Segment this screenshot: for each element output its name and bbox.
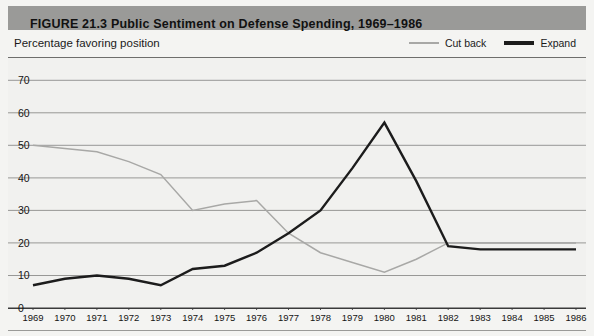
x-axis-tick-label: 1981	[406, 312, 427, 323]
x-axis-tick-label: 1985	[533, 312, 554, 323]
figure-bottom-rule	[8, 330, 586, 331]
y-axis-tick-label: 40	[18, 172, 30, 184]
x-axis-tick-label: 1970	[54, 312, 75, 323]
y-axis-tick-label: 60	[18, 107, 30, 119]
figure-container: FIGURE 21.3 Public Sentiment on Defense …	[0, 0, 594, 336]
x-axis-tick-label: 1983	[470, 312, 491, 323]
line-swatch-light-icon	[409, 42, 439, 44]
y-axis-tick-label: 70	[18, 74, 30, 86]
gridlines	[8, 80, 586, 308]
data-series-group	[33, 123, 576, 286]
legend-label-cut-back: Cut back	[445, 37, 486, 49]
legend-label-expand: Expand	[540, 37, 576, 49]
x-axis-tick-label: 1972	[118, 312, 139, 323]
x-axis-tick-label: 1986	[565, 312, 586, 323]
chart-subheader: Percentage favoring position Cut back Ex…	[8, 30, 586, 56]
x-axis-tick-label: 1982	[438, 312, 459, 323]
figure-title-bar: FIGURE 21.3 Public Sentiment on Defense …	[8, 6, 586, 30]
x-axis-tick-label: 1975	[214, 312, 235, 323]
x-axis-tick-label: 1971	[86, 312, 107, 323]
x-axis-tick-label: 1974	[182, 312, 203, 323]
x-axis-tick-label: 1976	[246, 312, 267, 323]
x-axis-tick-label: 1979	[342, 312, 363, 323]
page-title: FIGURE 21.3 Public Sentiment on Defense …	[30, 17, 422, 31]
y-axis-tick-label: 10	[18, 269, 30, 281]
y-axis-caption: Percentage favoring position	[14, 37, 160, 49]
chart-legend: Cut back Expand	[409, 37, 576, 49]
x-axis-tick-labels: 1969197019711972197319741975197619771978…	[8, 312, 586, 330]
plot-area: 010203040506070	[8, 57, 586, 309]
x-axis-tick-label: 1984	[502, 312, 523, 323]
y-axis-tick-label: 20	[18, 237, 30, 249]
legend-item-cut-back: Cut back	[409, 37, 486, 49]
x-axis-tick-label: 1978	[310, 312, 331, 323]
x-axis-tick-label: 1977	[278, 312, 299, 323]
y-axis-tick-label: 50	[18, 139, 30, 151]
x-axis-tick-label: 1980	[374, 312, 395, 323]
legend-item-expand: Expand	[504, 37, 576, 49]
series-line-expand	[33, 123, 576, 286]
x-axis-tick-label: 1973	[150, 312, 171, 323]
y-axis-tick-label: 30	[18, 204, 30, 216]
plot-svg	[8, 58, 586, 310]
line-swatch-dark-icon	[504, 41, 534, 45]
x-axis-tick-label: 1969	[22, 312, 43, 323]
series-line-cut-back	[33, 145, 576, 272]
